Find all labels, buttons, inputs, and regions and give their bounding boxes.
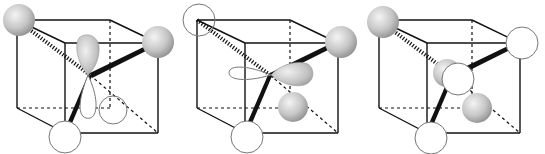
diagram-stage [0, 0, 545, 154]
atom-shaded-top-right [325, 26, 357, 58]
atom-open-bottom-left [49, 121, 81, 153]
atom-shaded-lower-right [462, 93, 492, 123]
atom-open-bottom-left [415, 122, 447, 154]
atom-shaded-lower-right [278, 92, 308, 122]
panel-1 [3, 4, 174, 153]
atom-open-lower-right [99, 96, 127, 124]
atom-open-top-right [506, 27, 538, 59]
orbital-lobe-lower-open [80, 75, 96, 118]
atom-shaded-top-left [367, 6, 399, 38]
orbital-lobe-right-shaded [271, 62, 313, 85]
atom-shaded-top-left [3, 4, 35, 36]
orbital-lobe-upper-shaded [77, 35, 99, 75]
orbital-lobe-left-open [229, 67, 271, 79]
atom-shaded-top-right [142, 26, 174, 58]
atom-open-bottom-left [231, 121, 263, 153]
panel-3 [367, 6, 538, 154]
tetrahedral-cubes-diagram [0, 0, 545, 154]
panel-2 [183, 4, 357, 153]
atom-open-center-front [442, 63, 474, 95]
